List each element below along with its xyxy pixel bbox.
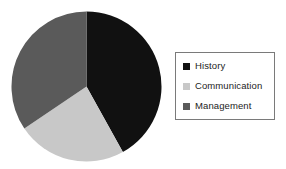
legend-item-history[interactable]: History [183, 56, 274, 76]
pie-slices [11, 12, 161, 162]
legend-swatch-communication-icon [183, 83, 190, 90]
legend-swatch-history-icon [183, 63, 190, 70]
legend-swatch-management-icon [183, 103, 190, 110]
chart-legend: History Communication Management [175, 52, 275, 120]
pie-chart-figure: History Communication Management [0, 0, 286, 169]
legend-item-management[interactable]: Management [183, 96, 274, 116]
legend-label-communication: Communication [195, 81, 262, 91]
pie-chart-area [11, 11, 162, 162]
pie-svg [11, 11, 162, 162]
legend-label-management: Management [195, 101, 251, 111]
legend-label-history: History [195, 61, 225, 71]
legend-item-communication[interactable]: Communication [183, 76, 274, 96]
